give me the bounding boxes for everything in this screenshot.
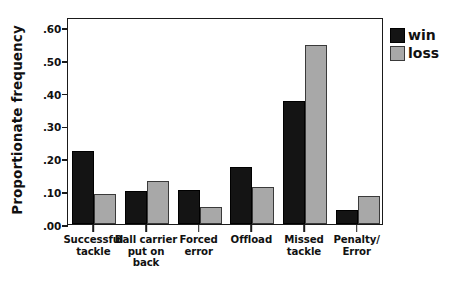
y-axis-tick-label: .30 [43, 121, 62, 133]
x-axis-tick [145, 225, 147, 232]
legend-item-loss: loss [390, 46, 439, 61]
legend-label-win: win [408, 28, 436, 43]
x-axis-tick [356, 225, 358, 232]
y-axis-title: Proportionate frequency [9, 25, 25, 215]
bar-win-5 [336, 210, 358, 224]
bar-win-4 [283, 101, 305, 224]
y-axis-tick-label: .20 [43, 154, 62, 166]
y-axis-tick: .40 [43, 89, 68, 101]
x-axis-category-label: Penalty/ Error [333, 234, 379, 257]
legend-swatch-loss [390, 46, 405, 61]
y-axis-tick-label: .60 [43, 23, 62, 35]
x-axis-category-label: Forced error [180, 234, 218, 257]
bar-loss-5 [358, 196, 380, 224]
x-axis-category-label: Ball carrier put on back [115, 234, 177, 269]
x-axis-tick [198, 225, 200, 232]
bar-win-1 [125, 191, 147, 225]
bar-win-0 [72, 151, 94, 224]
y-axis-tick-label: .40 [43, 89, 62, 101]
bar-loss-4 [305, 45, 327, 224]
x-axis: Successful tackleBall carrier put on bac… [0, 225, 457, 294]
legend-swatch-win [390, 28, 405, 43]
y-axis-tick: .20 [43, 154, 68, 166]
bar-loss-2 [200, 207, 222, 224]
x-axis-tick [251, 225, 253, 232]
y-axis-tick: .50 [43, 56, 68, 68]
legend-item-win: win [390, 28, 439, 43]
plot-area: .00.10.20.30.40.50.60 [67, 18, 383, 225]
y-axis-tick: .30 [43, 121, 68, 133]
x-axis-tick [303, 225, 305, 232]
y-axis-tick: .10 [43, 187, 68, 199]
bars-layer [68, 19, 382, 224]
y-axis-tick: .60 [43, 23, 68, 35]
y-axis-tick-label: .10 [43, 187, 62, 199]
bar-win-2 [178, 190, 200, 224]
x-axis-category-label: Offload [231, 234, 272, 246]
x-axis-category-label: Missed tackle [284, 234, 323, 257]
bar-loss-0 [94, 194, 116, 224]
y-axis-tick-label: .50 [43, 56, 62, 68]
chart-legend: winloss [390, 28, 439, 61]
bar-loss-3 [252, 187, 274, 224]
bar-loss-1 [147, 181, 169, 224]
legend-label-loss: loss [408, 46, 439, 61]
x-axis-tick [93, 225, 95, 232]
bar-win-3 [230, 167, 252, 224]
y-axis-title-container: Proportionate frequency [0, 0, 34, 240]
